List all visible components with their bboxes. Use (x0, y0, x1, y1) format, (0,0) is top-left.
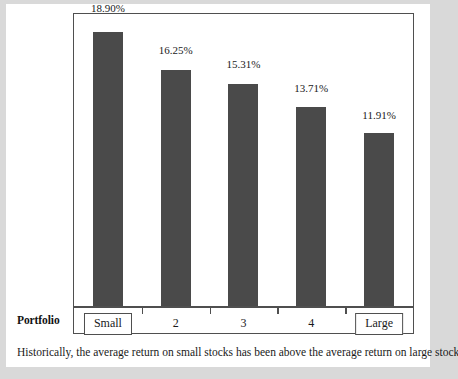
figure-sheet: 18.90% 16.25% 15.31% 13.71% 11.91% (6, 4, 430, 367)
axis-title-portfolio: Portfolio (17, 314, 60, 326)
bar-rect[interactable] (93, 32, 123, 306)
axis-tick (210, 306, 212, 314)
category-label-3: 3 (235, 314, 253, 334)
bar-slot: 15.31% (210, 14, 278, 306)
category-label-2: 2 (167, 314, 185, 334)
chart-frame: 18.90% 16.25% 15.31% 13.71% 11.91% (73, 13, 414, 334)
x-axis-line (74, 306, 413, 308)
bar-rect[interactable] (228, 84, 258, 306)
bar-rect[interactable] (364, 133, 394, 306)
category-label-large[interactable]: Large (355, 313, 403, 335)
axis-tick (142, 306, 144, 314)
category-label-small[interactable]: Small (84, 313, 132, 335)
bar-slot: 11.91% (345, 14, 413, 306)
figure-caption: Historically, the average return on smal… (17, 345, 427, 359)
bar-value-label: 15.31% (227, 58, 261, 70)
category-label-4: 4 (302, 314, 320, 334)
bar-slot: 13.71% (277, 14, 345, 306)
axis-tick (345, 306, 347, 314)
bar-rect[interactable] (296, 107, 326, 306)
plot-area: 18.90% 16.25% 15.31% 13.71% 11.91% (74, 14, 413, 306)
axis-tick (277, 306, 279, 314)
bar-value-label: 11.91% (362, 109, 396, 121)
bar-slot: 16.25% (142, 14, 210, 306)
bar-rect[interactable] (161, 70, 191, 306)
bar-value-label: 16.25% (159, 44, 193, 56)
category-label-band: Small 2 3 4 Large (74, 314, 413, 333)
bar-value-label: 13.71% (294, 82, 328, 94)
bar-slot: 18.90% (74, 14, 142, 306)
bar-value-label: 18.90% (91, 2, 125, 14)
